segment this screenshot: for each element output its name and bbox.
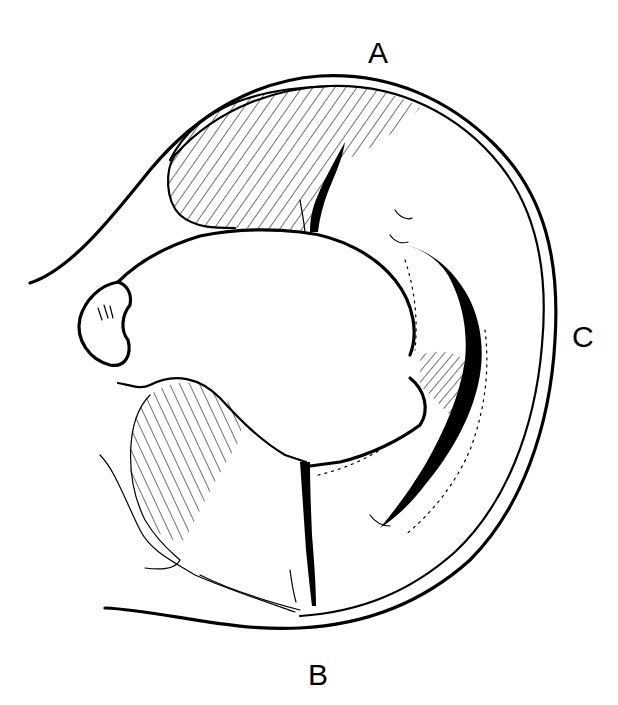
lower-cleft bbox=[290, 462, 316, 606]
label-b: B bbox=[308, 660, 328, 690]
right-crescent bbox=[318, 210, 487, 535]
label-a: A bbox=[368, 38, 388, 68]
lower-base bbox=[200, 575, 300, 610]
label-c: C bbox=[572, 322, 594, 352]
upper-hatched-lobe bbox=[168, 86, 420, 232]
anatomical-illustration bbox=[0, 0, 618, 705]
left-knob bbox=[79, 282, 130, 365]
